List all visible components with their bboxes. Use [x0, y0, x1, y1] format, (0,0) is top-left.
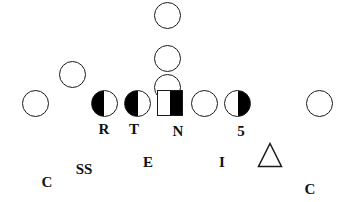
football-formation-diagram: RTN5CSSEIC: [0, 0, 345, 202]
position-label-5: 5: [237, 124, 245, 139]
offense-circle-guard-right: [191, 90, 218, 117]
position-label-r: R: [99, 122, 110, 137]
defender-half-circle-r: [91, 90, 118, 117]
offense-triangle-marker: [257, 142, 283, 168]
defender-half-square-n: [157, 90, 183, 116]
coverage-label-cornerback-right: C: [305, 182, 316, 197]
coverage-label-end: E: [143, 155, 153, 170]
defender-half-circle-t: [124, 90, 151, 117]
offense-circle-split-end-left: [22, 90, 49, 117]
position-label-t: T: [129, 122, 139, 137]
offense-circle-deep: [154, 2, 181, 29]
offense-circle-split-end-right: [306, 90, 333, 117]
defender-half-circle-5: [224, 90, 251, 117]
offense-circle-wing: [59, 61, 86, 88]
position-label-n: N: [173, 124, 184, 139]
coverage-label-strong-safety: SS: [76, 162, 93, 177]
coverage-label-cornerback-left: C: [42, 175, 53, 190]
offense-circle-quarterback: [154, 45, 181, 72]
coverage-label-inside-linebacker: I: [219, 155, 225, 170]
